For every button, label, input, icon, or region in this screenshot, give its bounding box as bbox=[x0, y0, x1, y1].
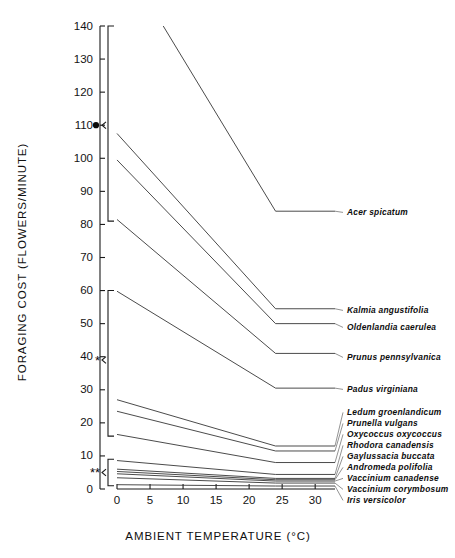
y-tick-label: 0 bbox=[87, 483, 93, 495]
species-label: Prunella vulgans bbox=[347, 418, 418, 428]
foraging-cost-figure: 0102030405060708090100110120130140 05101… bbox=[0, 0, 455, 558]
species-label: Oxycoccus oxycoccus bbox=[347, 429, 442, 439]
species-label: Prunus pennsylvanica bbox=[347, 352, 441, 362]
leader-lines bbox=[335, 211, 343, 500]
series-line bbox=[117, 291, 335, 388]
significance-marker-dot bbox=[93, 122, 99, 128]
y-tick-label: 10 bbox=[80, 449, 93, 461]
y-axis-title: FORAGING COST (FLOWERS/MINUTE) bbox=[16, 143, 28, 381]
significance-bracket bbox=[108, 291, 114, 437]
significance-bracket bbox=[108, 26, 114, 221]
y-tick-label: 110 bbox=[75, 119, 93, 131]
y-tick-label: 60 bbox=[80, 284, 93, 296]
x-axis: 051015202530 bbox=[114, 484, 335, 506]
species-label: Oldenlandia caerulea bbox=[347, 322, 436, 332]
y-tick-label: 120 bbox=[74, 86, 93, 98]
x-tick-label: 30 bbox=[309, 494, 322, 506]
series-line bbox=[117, 219, 335, 353]
species-labels: Acer spicatumKalmia angustifoliaOldenlan… bbox=[346, 207, 449, 505]
y-axis: 0102030405060708090100110120130140 bbox=[74, 20, 105, 495]
series-lines bbox=[117, 26, 335, 486]
series-line bbox=[117, 160, 335, 324]
y-tick-label: 100 bbox=[74, 152, 93, 164]
series-line bbox=[163, 26, 335, 211]
significance-brackets: *** bbox=[90, 26, 114, 486]
y-tick-label: 50 bbox=[80, 317, 93, 329]
y-tick-label: 70 bbox=[80, 251, 93, 263]
x-tick-label: 25 bbox=[276, 494, 289, 506]
y-tick-label: 30 bbox=[80, 383, 93, 395]
y-tick-label: 130 bbox=[74, 53, 93, 65]
significance-marker: ** bbox=[90, 465, 100, 480]
species-label: Gaylussacia buccata bbox=[347, 451, 435, 461]
y-tick-label: 40 bbox=[80, 350, 93, 362]
x-tick-label: 15 bbox=[210, 494, 223, 506]
significance-marker: * bbox=[95, 353, 100, 368]
species-label: Ledum groenlandicum bbox=[347, 407, 442, 417]
significance-bracket bbox=[108, 459, 114, 485]
chart-canvas: 0102030405060708090100110120130140 05101… bbox=[0, 0, 455, 558]
x-tick-label: 20 bbox=[243, 494, 256, 506]
x-tick-label: 10 bbox=[177, 494, 190, 506]
y-tick-label: 20 bbox=[80, 416, 93, 428]
x-axis-title: AMBIENT TEMPERATURE (°C) bbox=[125, 530, 310, 542]
species-label: Vaccinium canadense bbox=[347, 473, 439, 483]
y-tick-label: 80 bbox=[80, 218, 93, 230]
y-tick-label: 140 bbox=[74, 20, 93, 32]
species-label: Iris versicolor bbox=[347, 495, 406, 505]
y-tick-label: 90 bbox=[80, 185, 93, 197]
x-tick-label: 0 bbox=[114, 494, 120, 506]
species-label: Padus virginiana bbox=[347, 384, 418, 394]
series-line bbox=[117, 400, 335, 446]
series-line bbox=[117, 133, 335, 308]
x-tick-label: 5 bbox=[147, 494, 153, 506]
species-label: Acer spicatum bbox=[346, 207, 408, 217]
species-label: Vaccinium corymbosum bbox=[347, 484, 449, 494]
species-label: Rhodora canadensis bbox=[347, 440, 434, 450]
species-label: Kalmia angustifolia bbox=[347, 305, 429, 315]
species-label: Andromeda polifolia bbox=[346, 462, 433, 472]
